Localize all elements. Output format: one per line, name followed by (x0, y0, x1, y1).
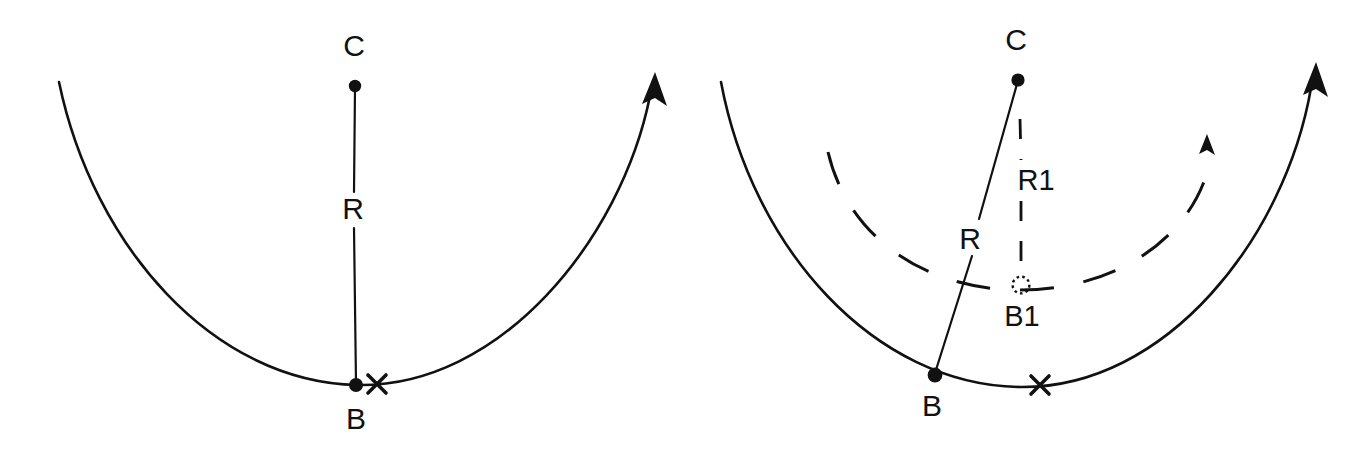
curvature-diagram-svg: C R B (0, 0, 1372, 459)
left-arc-arrowhead-icon (642, 72, 667, 106)
left-base-dot (349, 378, 363, 392)
right-radius-line-lower (935, 256, 972, 373)
left-base-label: B (346, 402, 366, 435)
right-base-label: B (922, 389, 942, 422)
right-radius-label: R (959, 222, 981, 255)
right-dashed-arc-arrowhead-icon (1199, 134, 1215, 155)
right-base-dot (928, 368, 943, 383)
left-center-label: C (343, 29, 365, 62)
figure-root: C R B (0, 0, 1372, 459)
left-radius-label: R (342, 192, 364, 225)
left-panel-group: C R B (59, 29, 667, 435)
right-arc-arrowhead-icon (1303, 62, 1328, 97)
left-radius-line-upper (354, 88, 355, 192)
left-center-dot (349, 80, 361, 92)
left-radius-line-lower (354, 228, 356, 383)
right-panel-group: C R R1 B B1 (721, 23, 1328, 422)
right-radius-line-upper (979, 84, 1017, 219)
right-solid-arc (721, 82, 1311, 387)
right-base1-label: B1 (1004, 300, 1039, 332)
right-center-label: C (1005, 23, 1027, 56)
right-radius1-line-upper (1020, 119, 1021, 160)
right-radius1-label: R1 (1017, 164, 1054, 196)
right-center-dot (1011, 73, 1024, 86)
